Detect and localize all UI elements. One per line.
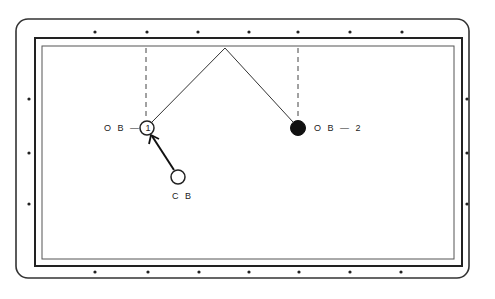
diamond-bottom — [93, 270, 96, 273]
diamond-right — [465, 151, 468, 154]
diamond-top — [93, 30, 96, 33]
object-ball-2 — [291, 121, 306, 136]
outer-rail — [16, 19, 469, 278]
label-ob1: O B — 1 — [104, 123, 153, 133]
diamond-top — [145, 30, 148, 33]
diamond-left — [27, 97, 30, 100]
label-ob2: O B — 2 — [314, 123, 363, 133]
path-ob1-to-rail — [152, 48, 225, 122]
diamond-bottom — [247, 270, 250, 273]
playing-surface — [42, 46, 454, 259]
diamond-bottom — [197, 270, 200, 273]
diamond-left — [27, 151, 30, 154]
diamond-bottom — [297, 270, 300, 273]
diamond-bottom — [146, 270, 149, 273]
cue-ball-path-arrow — [152, 136, 174, 170]
diamond-left — [27, 202, 30, 205]
cushion — [35, 38, 462, 266]
diamond-bottom — [399, 270, 402, 273]
path-rail-to-ob2 — [225, 48, 293, 122]
diamond-right — [465, 97, 468, 100]
diamond-top — [400, 30, 403, 33]
diamond-right — [465, 202, 468, 205]
billiard-table-diagram: O B — 1 O B — 2 C B — [0, 0, 495, 299]
label-cb: C B — [172, 191, 193, 201]
diamond-top — [296, 30, 299, 33]
diamonds — [27, 30, 468, 273]
cue-ball — [171, 170, 185, 184]
diamond-top — [196, 30, 199, 33]
diamond-top — [348, 30, 351, 33]
diamond-top — [247, 30, 250, 33]
diamond-bottom — [348, 270, 351, 273]
